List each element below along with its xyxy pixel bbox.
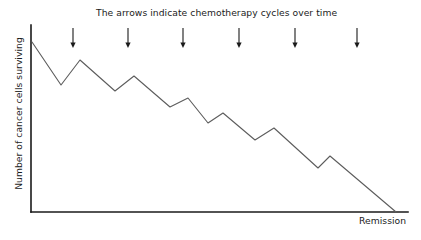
chemotherapy-cycle-arrows <box>70 28 359 48</box>
chemotherapy-cycles-figure: The arrows indicate chemotherapy cycles … <box>0 0 421 240</box>
chemo-arrow-head-3 <box>180 43 185 49</box>
chemo-arrow-head-5 <box>292 43 297 49</box>
cancer-cell-curve <box>32 42 396 212</box>
chart-plot-area <box>0 0 421 240</box>
chemo-arrow-head-1 <box>70 43 75 49</box>
chemo-arrow-head-4 <box>236 43 241 49</box>
chemo-arrow-head-6 <box>354 43 359 49</box>
cancer-cell-curve-group <box>32 42 396 212</box>
chemo-arrow-head-2 <box>125 43 130 49</box>
axes-group <box>31 25 408 212</box>
